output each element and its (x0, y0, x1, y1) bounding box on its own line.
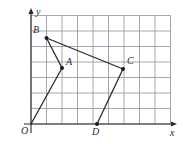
y-axis-arrowhead (28, 8, 33, 14)
point-label-d: D (92, 127, 99, 137)
y-axis-label: y (36, 7, 40, 17)
segment-B-C (47, 38, 124, 69)
coordinate-figure: A B C D x y O (0, 0, 183, 144)
vertex-dot-c (121, 67, 125, 71)
point-label-b: B (33, 25, 39, 35)
grid-lines (31, 16, 171, 125)
figure-canvas (0, 0, 183, 144)
vertex-markers (45, 36, 126, 126)
coordinate-axes (24, 8, 177, 133)
vertex-dot-b (45, 36, 49, 40)
x-axis-arrowhead (171, 121, 177, 126)
point-label-c: C (127, 56, 134, 66)
vertex-dot-a (60, 66, 64, 70)
point-label-a: A (66, 57, 72, 67)
segment-B-A (47, 38, 63, 68)
polygon-segments (31, 38, 123, 124)
origin-label: O (21, 126, 28, 136)
x-axis-label: x (170, 128, 174, 138)
